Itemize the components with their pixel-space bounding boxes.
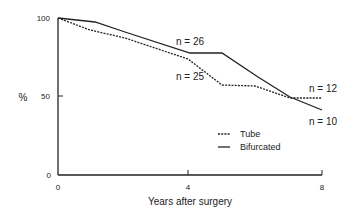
y-tick-label-100: 100 [37, 14, 51, 23]
x-tick-label-8: 8 [320, 183, 325, 192]
annotation-n26: n = 26 [176, 36, 205, 47]
x-tick-label-0: 0 [56, 183, 61, 192]
series-tube-line [58, 18, 322, 98]
annotation-n12: n = 12 [309, 83, 338, 94]
legend-bifurcated-label: Bifurcated [240, 142, 281, 152]
y-tick-label-0: 0 [47, 171, 52, 180]
legend-tube-label: Tube [240, 129, 260, 139]
legend: Tube Bifurcated [218, 129, 281, 152]
annotation-n25: n = 25 [176, 71, 205, 82]
annotation-n10: n = 10 [309, 116, 338, 127]
y-axis-title: % [19, 92, 28, 103]
x-tick-label-4: 4 [186, 183, 191, 192]
x-axis-title: Years after surgery [148, 196, 232, 207]
survival-chart: 100 50 0 0 4 8 % Years after surgery n =… [0, 0, 351, 220]
y-tick-label-50: 50 [41, 92, 50, 101]
